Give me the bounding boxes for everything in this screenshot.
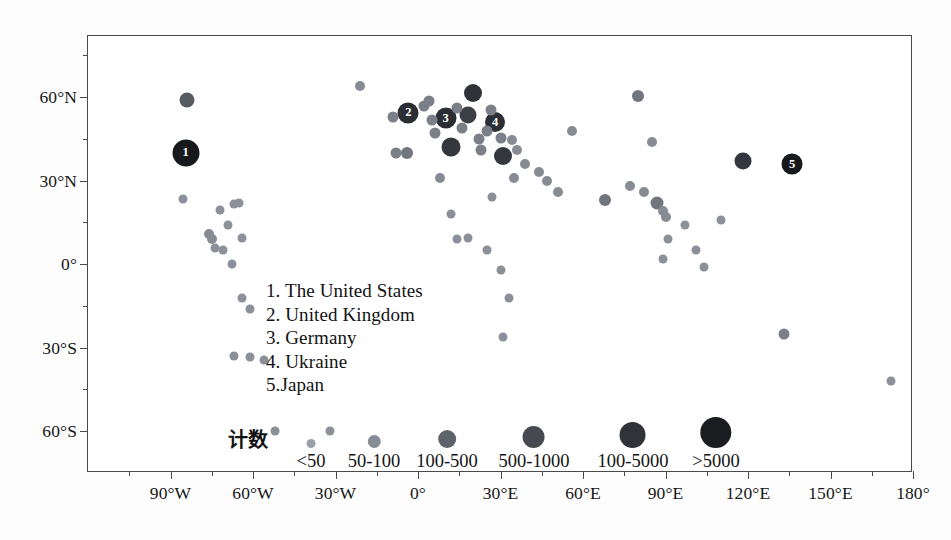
- size-legend-label: 100-5000: [598, 451, 669, 472]
- size-legend-bubble: [620, 422, 646, 448]
- size-legend-label: 500-1000: [499, 451, 570, 472]
- size-legend-item: 500-1000: [499, 426, 570, 472]
- size-legend-label: <50: [297, 451, 326, 472]
- size-legend-item: 100-5000: [598, 422, 669, 472]
- size-legend-bubble: [523, 426, 545, 448]
- size-legend-item: 50-100: [348, 435, 400, 472]
- size-legend: 计数 <5050-100100-500500-1000100-5000>5000: [0, 0, 951, 540]
- size-legend-bubble: [307, 439, 316, 448]
- size-legend-bubble: [438, 430, 456, 448]
- size-legend-item: >5000: [692, 417, 739, 472]
- size-legend-label: 50-100: [348, 451, 400, 472]
- chart-canvas: 12354 60°N30°N0°30°S60°S90°W60°W30°W0°30…: [0, 0, 951, 540]
- size-legend-item: 100-500: [416, 430, 478, 472]
- size-legend-label: 100-500: [416, 451, 478, 472]
- size-legend-bubble: [701, 417, 732, 448]
- size-legend-bubble: [367, 435, 380, 448]
- size-legend-item: <50: [297, 439, 326, 472]
- size-legend-label: >5000: [692, 451, 739, 472]
- size-legend-title: 计数: [228, 424, 268, 453]
